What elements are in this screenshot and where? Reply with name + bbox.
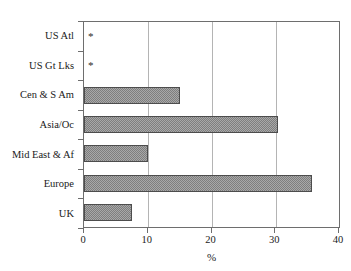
y-axis-label: UK: [0, 198, 79, 228]
x-axis-title: %: [83, 251, 340, 263]
bar: [84, 87, 180, 104]
y-axis-label: US Gt Lks: [0, 51, 79, 81]
x-axis-tick: [83, 228, 84, 233]
bar-row: [84, 81, 339, 110]
bar-row: *: [84, 51, 339, 80]
x-axis-tick-label: 30: [269, 234, 280, 245]
asterisk-marker: *: [88, 31, 94, 42]
bar-row: [84, 198, 339, 227]
plot-area: **: [83, 21, 340, 228]
x-axis-tick: [211, 228, 212, 233]
y-axis-label: US Atl: [0, 21, 79, 51]
x-axis-tick-label: 10: [142, 234, 153, 245]
bar-row: [84, 110, 339, 139]
bar-rows: **: [84, 22, 339, 227]
bar: [84, 175, 312, 192]
bar: [84, 145, 148, 162]
x-axis-ticks: [83, 228, 340, 233]
bar-row: [84, 168, 339, 197]
x-axis-tick-label: 40: [333, 234, 344, 245]
x-axis-tick: [147, 228, 148, 233]
x-axis-tick-label: 0: [80, 234, 85, 245]
bar: [84, 204, 132, 221]
y-axis-label: Asia/Oc: [0, 110, 79, 140]
asterisk-marker: *: [88, 60, 94, 71]
chart-title: [0, 0, 351, 3]
x-axis-tick: [338, 228, 339, 233]
x-axis-tick: [274, 228, 275, 233]
y-axis-label: Europe: [0, 169, 79, 199]
bar-row: [84, 139, 339, 168]
bar: [84, 116, 278, 133]
x-axis-tick-labels: 010203040: [0, 234, 351, 248]
bar-row: *: [84, 22, 339, 51]
y-axis-labels: US Atl US Gt Lks Cen & S Am Asia/Oc Mid …: [0, 21, 79, 228]
bar-chart: US Atl US Gt Lks Cen & S Am Asia/Oc Mid …: [0, 0, 351, 271]
y-axis-label: Mid East & Af: [0, 139, 79, 169]
x-axis-tick-label: 20: [205, 234, 216, 245]
y-axis-label: Cen & S Am: [0, 80, 79, 110]
